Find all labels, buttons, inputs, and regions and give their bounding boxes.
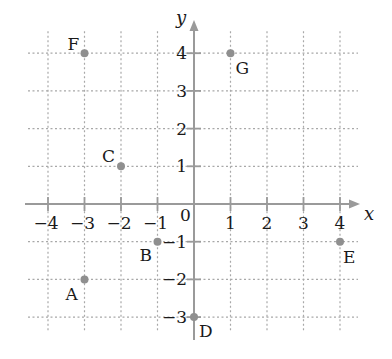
x-tick-label: −4 [33, 213, 58, 233]
x-tick-label: −2 [106, 213, 131, 233]
x-tick-label: 3 [298, 213, 309, 233]
x-tick-label: 4 [335, 213, 346, 233]
point-g [227, 49, 235, 57]
x-axis-label: x [364, 203, 374, 224]
point-b [154, 238, 162, 246]
point-label-e: E [343, 247, 355, 267]
x-tick-label: −3 [70, 213, 95, 233]
axis-ticks: −4−3−2−112344321−1−2−3 [33, 43, 345, 327]
x-tick-label: 1 [225, 213, 236, 233]
data-points: ABCDEFG [65, 34, 356, 341]
point-label-f: F [68, 34, 80, 54]
y-tick-label: −3 [162, 307, 187, 327]
point-label-b: B [140, 245, 153, 265]
x-axis-arrow-icon [349, 200, 360, 209]
point-a [81, 275, 89, 283]
y-tick-label: −1 [162, 232, 187, 252]
y-tick-label: 2 [176, 119, 187, 139]
point-d [190, 313, 198, 321]
y-tick-label: 3 [176, 81, 187, 101]
x-tick-label: −1 [143, 213, 168, 233]
y-tick-label: −2 [162, 269, 187, 289]
point-f [81, 49, 89, 57]
x-tick-label: 2 [262, 213, 273, 233]
point-e [336, 238, 344, 246]
point-label-a: A [65, 284, 79, 304]
y-axis-label: y [175, 7, 187, 28]
y-tick-label: 1 [176, 156, 187, 176]
point-label-g: G [236, 58, 250, 78]
coordinate-plane: xy0 −4−3−2−112344321−1−2−3 ABCDEFG [0, 0, 392, 359]
y-tick-label: 4 [176, 43, 187, 63]
point-c [117, 162, 125, 170]
origin-label: 0 [180, 205, 191, 225]
y-axis-arrow-icon [190, 20, 199, 31]
point-label-c: C [102, 146, 115, 166]
point-label-d: D [199, 321, 213, 341]
